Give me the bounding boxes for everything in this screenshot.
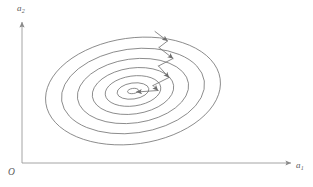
contour-plot-svg xyxy=(0,0,313,187)
descent-path-group xyxy=(137,32,174,93)
contour-ellipse-1 xyxy=(127,88,139,95)
descent-segment-4 xyxy=(159,59,174,67)
y-axis-label: a2 xyxy=(17,4,25,13)
descent-segment-2 xyxy=(159,41,168,48)
y-axis-label-base: a xyxy=(17,3,22,13)
origin-label: O xyxy=(8,168,15,178)
y-axis-label-subscript: 2 xyxy=(22,8,25,14)
contour-ellipse-7 xyxy=(38,26,227,155)
descent-segment-7 xyxy=(153,86,158,91)
contour-ellipse-6 xyxy=(56,39,210,142)
descent-segment-5 xyxy=(159,66,170,78)
axes-group xyxy=(22,22,291,163)
descent-segment-8 xyxy=(137,91,159,93)
descent-segment-6 xyxy=(153,78,169,86)
contour-ellipses-group xyxy=(38,26,227,155)
figure-container: a2 a1 O xyxy=(0,0,313,187)
x-axis-label-base: a xyxy=(296,160,301,170)
contour-ellipse-5 xyxy=(73,52,193,131)
descent-segment-1 xyxy=(155,32,168,42)
x-axis-label: a1 xyxy=(296,161,304,170)
contour-ellipse-2 xyxy=(116,81,150,101)
x-axis-label-subscript: 1 xyxy=(301,165,304,171)
descent-segment-3 xyxy=(159,48,173,59)
